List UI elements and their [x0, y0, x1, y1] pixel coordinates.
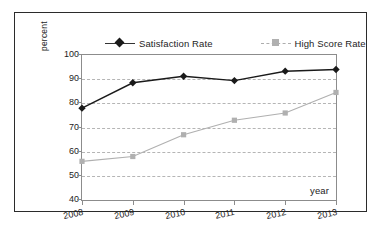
- data-point-square: [333, 90, 338, 95]
- plot-area: year: [81, 54, 337, 201]
- legend-item-satisfaction-rate: Satisfaction Rate: [105, 35, 213, 51]
- data-point-square: [232, 118, 237, 123]
- y-axis-title: percent: [39, 1, 53, 51]
- x-axis-tick-labels: 200820092010201120122013: [81, 203, 337, 225]
- x-axis-tick-label: 2013: [316, 207, 338, 221]
- legend-label-high-score-rate: High Score Rate: [295, 38, 366, 49]
- series-line-1: [82, 70, 336, 109]
- figure-frame: Satisfaction Rate High Score Rate percen…: [14, 12, 367, 212]
- x-axis-tick-label: 2011: [215, 207, 236, 221]
- x-axis-tick-label: 2012: [266, 207, 288, 221]
- legend-marker-square-icon: [261, 37, 291, 49]
- plot-inner: [82, 55, 336, 200]
- series-line-2: [82, 92, 336, 161]
- data-point-square: [181, 132, 186, 137]
- x-axis-title: year: [310, 185, 329, 196]
- legend-marker-diamond-icon: [105, 37, 135, 49]
- x-axis-tick-label: 2009: [113, 207, 135, 221]
- data-point-square: [283, 110, 288, 115]
- chart-legend: Satisfaction Rate High Score Rate: [95, 35, 360, 51]
- data-point-diamond: [282, 68, 289, 75]
- chart-figure: Satisfaction Rate High Score Rate percen…: [0, 0, 380, 225]
- data-point-square: [79, 159, 84, 164]
- legend-item-high-score-rate: High Score Rate: [261, 35, 366, 51]
- legend-label-satisfaction-rate: Satisfaction Rate: [139, 38, 213, 49]
- x-axis-tick-label: 2010: [164, 207, 186, 221]
- series-layer: [82, 55, 336, 200]
- data-point-diamond: [231, 77, 238, 84]
- x-axis-tick-label: 2008: [62, 207, 84, 221]
- data-point-diamond: [180, 73, 187, 80]
- data-point-diamond: [129, 79, 136, 86]
- data-point-diamond: [332, 66, 339, 73]
- data-point-square: [130, 154, 135, 159]
